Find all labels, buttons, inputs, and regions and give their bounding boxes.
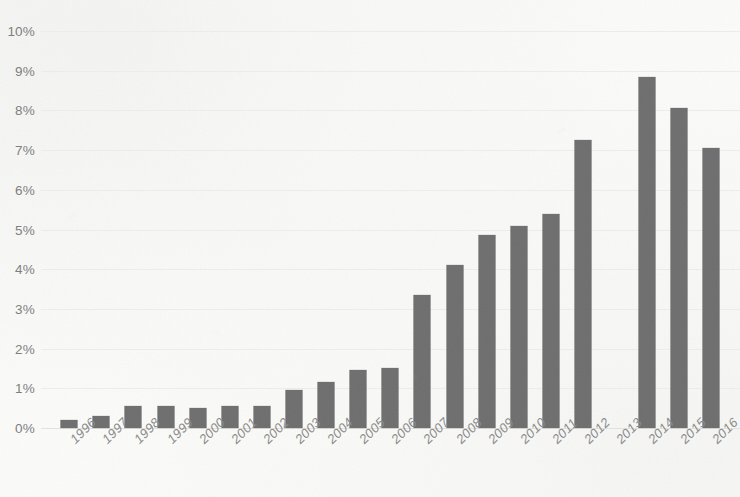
bar-2011[interactable] bbox=[542, 214, 559, 428]
x-tick-slot-1998: 1998 bbox=[117, 428, 149, 497]
x-tick-slot-2008: 2008 bbox=[439, 428, 471, 497]
x-tick-slot-2011: 2011 bbox=[535, 428, 567, 497]
bar-slot-1996 bbox=[53, 0, 85, 428]
bar-2007[interactable] bbox=[414, 295, 431, 428]
x-tick-slot-2016: 2016 bbox=[695, 428, 727, 497]
y-axis-tick-labels: 0%1%2%3%4%5%6%7%8%9%10% bbox=[0, 0, 40, 497]
bar-slot-2005 bbox=[342, 0, 374, 428]
bar-2014[interactable] bbox=[639, 77, 656, 428]
bar-2008[interactable] bbox=[446, 265, 463, 428]
x-tick-slot-2002: 2002 bbox=[246, 428, 278, 497]
y-tick-label-8pct: 8% bbox=[15, 103, 35, 118]
x-tick-slot-2010: 2010 bbox=[503, 428, 535, 497]
bar-series bbox=[41, 0, 740, 428]
y-tick-label-6pct: 6% bbox=[15, 182, 35, 197]
x-tick-slot-2014: 2014 bbox=[631, 428, 663, 497]
x-tick-slot-2000: 2000 bbox=[182, 428, 214, 497]
y-tick-label-10pct: 10% bbox=[7, 24, 35, 39]
bar-2015[interactable] bbox=[671, 108, 688, 428]
y-tick-label-9pct: 9% bbox=[15, 63, 35, 78]
bar-slot-2000 bbox=[182, 0, 214, 428]
bar-2006[interactable] bbox=[382, 368, 399, 428]
bar-slot-2003 bbox=[278, 0, 310, 428]
x-tick-slot-2015: 2015 bbox=[663, 428, 695, 497]
bar-slot-2001 bbox=[214, 0, 246, 428]
bar-slot-2014 bbox=[631, 0, 663, 428]
bar-slot-2010 bbox=[503, 0, 535, 428]
bar-slot-2013 bbox=[599, 0, 631, 428]
x-tick-slot-2003: 2003 bbox=[278, 428, 310, 497]
bar-slot-1997 bbox=[85, 0, 117, 428]
x-tick-slot-2007: 2007 bbox=[406, 428, 438, 497]
x-tick-slot-1997: 1997 bbox=[85, 428, 117, 497]
y-tick-label-0pct: 0% bbox=[15, 421, 35, 436]
bar-slot-2009 bbox=[471, 0, 503, 428]
y-tick-label-3pct: 3% bbox=[15, 301, 35, 316]
x-tick-slot-1996: 1996 bbox=[53, 428, 85, 497]
y-tick-label-1pct: 1% bbox=[15, 381, 35, 396]
bar-chart: 0%1%2%3%4%5%6%7%8%9%10% 1996199719981999… bbox=[0, 0, 740, 497]
bar-slot-2006 bbox=[374, 0, 406, 428]
bar-slot-1998 bbox=[117, 0, 149, 428]
bar-slot-2011 bbox=[535, 0, 567, 428]
bar-slot-2008 bbox=[439, 0, 471, 428]
x-axis-tick-labels: 1996199719981999200020012002200320042005… bbox=[41, 428, 740, 497]
x-tick-slot-2013: 2013 bbox=[599, 428, 631, 497]
x-tick-slot-1999: 1999 bbox=[150, 428, 182, 497]
bar-slot-1999 bbox=[150, 0, 182, 428]
bar-2009[interactable] bbox=[478, 235, 495, 428]
bar-2010[interactable] bbox=[510, 226, 527, 428]
y-tick-label-2pct: 2% bbox=[15, 341, 35, 356]
bar-slot-2007 bbox=[406, 0, 438, 428]
x-tick-slot-2005: 2005 bbox=[342, 428, 374, 497]
x-tick-slot-2006: 2006 bbox=[374, 428, 406, 497]
y-tick-label-7pct: 7% bbox=[15, 143, 35, 158]
bar-slot-2016 bbox=[695, 0, 727, 428]
bar-slot-2002 bbox=[246, 0, 278, 428]
bar-slot-2004 bbox=[310, 0, 342, 428]
x-tick-slot-2009: 2009 bbox=[471, 428, 503, 497]
x-tick-slot-2001: 2001 bbox=[214, 428, 246, 497]
x-tick-slot-2012: 2012 bbox=[567, 428, 599, 497]
y-tick-label-4pct: 4% bbox=[15, 262, 35, 277]
bar-slot-2012 bbox=[567, 0, 599, 428]
bar-slot-2015 bbox=[663, 0, 695, 428]
bar-2012[interactable] bbox=[574, 140, 591, 428]
bar-2005[interactable] bbox=[350, 370, 367, 428]
x-tick-slot-2004: 2004 bbox=[310, 428, 342, 497]
bar-2016[interactable] bbox=[703, 148, 720, 428]
y-tick-label-5pct: 5% bbox=[15, 222, 35, 237]
